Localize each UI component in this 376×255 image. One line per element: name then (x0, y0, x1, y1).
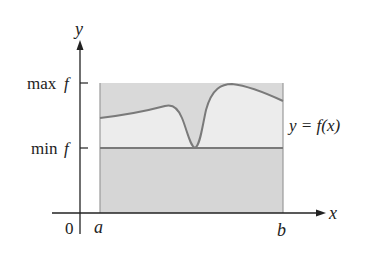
max-f-label-main: max (27, 74, 57, 93)
min-f-label-var: f (64, 139, 71, 158)
min-f-label-main: min (31, 139, 58, 158)
x-tick-b-label: b (277, 220, 286, 240)
x-axis-arrow-icon (316, 210, 326, 217)
x-axis-label: x (328, 203, 337, 223)
diagram-canvas: y x max f min f 0 a b y = f(x) (0, 0, 376, 255)
curve-label: y = f(x) (287, 116, 340, 135)
origin-label: 0 (65, 219, 74, 238)
min-rectangle (100, 148, 283, 213)
max-f-label-var: f (64, 74, 71, 93)
y-axis-label: y (73, 19, 83, 39)
x-tick-a-label: a (94, 217, 103, 237)
y-axis-arrow-icon (77, 40, 84, 50)
